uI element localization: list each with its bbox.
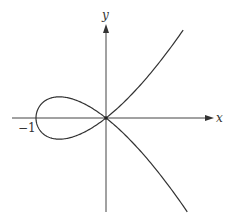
- nodal-cubic-plot: x y −1: [0, 0, 231, 223]
- x-axis-label: x: [216, 111, 223, 125]
- curve-path: [36, 30, 187, 212]
- x-axis-arrow-icon: [205, 115, 214, 121]
- origin-node-point: [104, 116, 108, 120]
- y-axis-arrow-icon: [103, 24, 109, 33]
- tick-label-neg1: −1: [18, 121, 36, 135]
- y-axis-label: y: [101, 8, 109, 22]
